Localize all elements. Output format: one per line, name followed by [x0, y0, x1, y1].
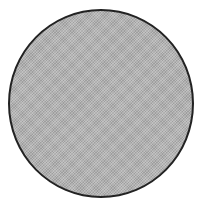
- gray-circle: [8, 9, 194, 198]
